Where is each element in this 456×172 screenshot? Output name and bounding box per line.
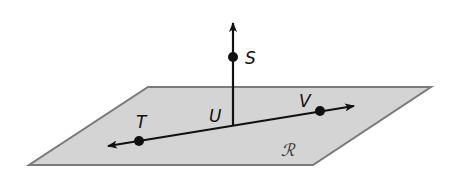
point-s-label: S [245,48,256,68]
point-s-dot [228,52,238,62]
point-v-label: V [299,91,312,111]
plane-label: ℛ [281,140,296,160]
point-u-label: U [209,106,222,126]
point-t-dot [134,136,144,146]
point-t-label: T [136,112,148,132]
point-v-dot [315,106,325,116]
geometry-diagram: STUV ℛ [0,0,456,172]
